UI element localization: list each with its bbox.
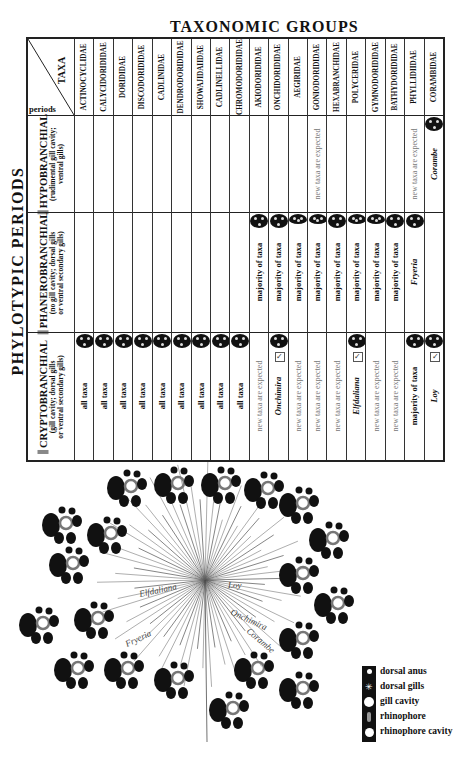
title-phylotypic-periods: PHYLOTYPIC PERIODS — [9, 161, 27, 381]
tree-branch — [203, 580, 205, 668]
tree-branch — [205, 567, 268, 580]
taxon-name: GYMNODORIDIDAE — [372, 42, 380, 112]
table-cell: majority of taxa — [308, 212, 326, 332]
taxon-header: CALYCIDORIDIDAE — [94, 39, 112, 116]
tree-genus-label: Elfdaliana — [137, 581, 178, 599]
genus-label: Fryeria — [409, 259, 419, 285]
taxon-column: AKIODORIDIDAEmajority of taxanew taxa ar… — [249, 39, 268, 460]
body-plan-icon — [289, 214, 307, 224]
cell-text: majority of taxa — [254, 243, 264, 302]
table-corner-header: TAXA periods — [28, 39, 74, 116]
taxon-header: AKIODORIDIDAE — [250, 39, 268, 116]
legend-item-gill-cavity: gill cavity — [380, 696, 419, 706]
tree-branch — [205, 506, 241, 580]
cell-text: majority of taxa — [390, 243, 400, 302]
table-cell: new taxa are expected — [308, 332, 326, 460]
dorsal-anus-icon — [367, 669, 372, 674]
body-plan-icon — [153, 334, 171, 348]
taxon-column: ACTINOCYCLIDAEall taxa — [74, 39, 93, 460]
body-plan-icon — [231, 334, 249, 348]
taxon-header: DISCODORIDIDAE — [133, 39, 151, 116]
taxon-column: CHROMODORIDIDAEall taxa — [229, 39, 248, 460]
body-plan-cluster — [87, 517, 127, 555]
cell-text: new taxa are expected — [254, 361, 263, 432]
table-cell: new taxa are expected — [289, 332, 307, 460]
taxon-header: CHROMODORIDIDAE — [230, 39, 248, 116]
body-plan-cluster — [279, 622, 319, 660]
table-cell — [250, 115, 268, 212]
table-cell: all taxa — [153, 332, 171, 460]
body-plan-icon — [425, 334, 443, 348]
table-cell: Onchimira✓ — [269, 332, 287, 460]
body-plan-cluster — [309, 522, 349, 560]
period-cryptobranchial: CRYPTOBRANCHIAL(gill cavity; dorsal gill… — [28, 332, 74, 460]
body-plan-cluster — [107, 470, 147, 508]
rhinophore-icon — [367, 712, 371, 722]
body-plan-icon — [76, 334, 94, 348]
body-plan-cluster — [42, 507, 82, 545]
table-cell: majority of taxa — [269, 212, 287, 332]
taxon-column: DENDRODORIDIDAEall taxa — [171, 39, 190, 460]
table-cell: all taxa — [94, 332, 112, 460]
table-cell: majority of taxa — [405, 332, 423, 460]
taxon-column: ONCHIDORIDIDAEmajority of taxaOnchimira✓ — [268, 39, 287, 460]
body-plan-icon — [115, 334, 133, 348]
taxon-name: CALYCIDORIDIDAE — [100, 42, 108, 112]
taxon-column: CORAMBIDAECorambeLoy✓ — [424, 39, 443, 460]
taxon-column: AEGIRIDAEmajority of taxanew taxa are ex… — [288, 39, 307, 460]
taxon-column: GONIODORIDIDAEnew taxa are expectedmajor… — [307, 39, 326, 460]
taxon-header: PHYLLIDIIDAE — [405, 39, 423, 116]
taxon-name: CHROMODORIDIDAE — [236, 39, 244, 115]
table-cell: new taxa are expected — [405, 115, 423, 212]
cell-text: all taxa — [79, 383, 89, 410]
taxon-header: POLYCERIDAE — [347, 39, 365, 116]
body-plan-cluster — [279, 672, 319, 710]
table-cell: all taxa — [230, 332, 248, 460]
body-plan-icon — [348, 334, 366, 348]
taxon-header: AEGIRIDAE — [289, 39, 307, 116]
body-plan-cluster — [54, 652, 94, 690]
taxon-name: PHYLLIDIIDAE — [410, 50, 418, 104]
legend-item-rhinophore-cavity: rhinophore cavity — [380, 726, 452, 736]
table-cell — [172, 115, 190, 212]
genus-label: Loy — [429, 389, 439, 402]
table-cell — [133, 212, 151, 332]
taxon-column: HEXABRANCHIDAEmajority of taxanew taxa a… — [326, 39, 345, 460]
table-cell: majority of taxa — [366, 212, 384, 332]
taxon-name: POLYCERIDAE — [352, 51, 360, 103]
tree-branch — [205, 536, 251, 580]
taxon-name: GONIODORIDIDAE — [313, 44, 321, 111]
cell-text: new taxa are expected — [390, 361, 399, 432]
taxon-header: DENDRODORIDIDAE — [172, 39, 190, 116]
taxon-header: ONCHIDORIDIDAE — [269, 39, 287, 116]
table-cell — [133, 115, 151, 212]
table-cell — [425, 212, 443, 332]
body-plan-icon — [270, 334, 288, 348]
table-cell — [366, 115, 384, 212]
cell-text: new taxa are expected — [410, 128, 419, 199]
table-cell: Fryeria — [405, 212, 423, 332]
table-cell: majority of taxa — [327, 212, 345, 332]
body-plan-icon — [309, 214, 327, 224]
body-plan-cluster — [209, 692, 249, 730]
body-plan-icon — [348, 214, 366, 224]
body-plan-cluster — [279, 557, 319, 595]
body-plan-icon — [270, 214, 288, 228]
tree-genus-label: Loy — [227, 580, 242, 590]
tree-branch — [134, 568, 205, 580]
taxon-column: PHYLLIDIIDAEnew taxa are expectedFryeria… — [404, 39, 423, 460]
taxon-header: CADLINELLIDAE — [211, 39, 229, 116]
cell-text: all taxa — [215, 383, 225, 410]
body-plan-cluster — [154, 467, 194, 505]
taxon-name: BATHYDORIDIDAE — [391, 44, 399, 111]
period-desc: or ventral secondary gills) — [57, 340, 65, 454]
cell-text: majority of taxa — [332, 243, 342, 302]
table-cell: all taxa — [172, 332, 190, 460]
tree-branch — [139, 548, 205, 580]
table-cell — [94, 212, 112, 332]
taxon-header: CADLINIDAE — [153, 39, 171, 116]
table-cell — [192, 115, 210, 212]
table-cell — [289, 115, 307, 212]
table-cell — [153, 115, 171, 212]
cell-text: majority of taxa — [273, 243, 283, 302]
